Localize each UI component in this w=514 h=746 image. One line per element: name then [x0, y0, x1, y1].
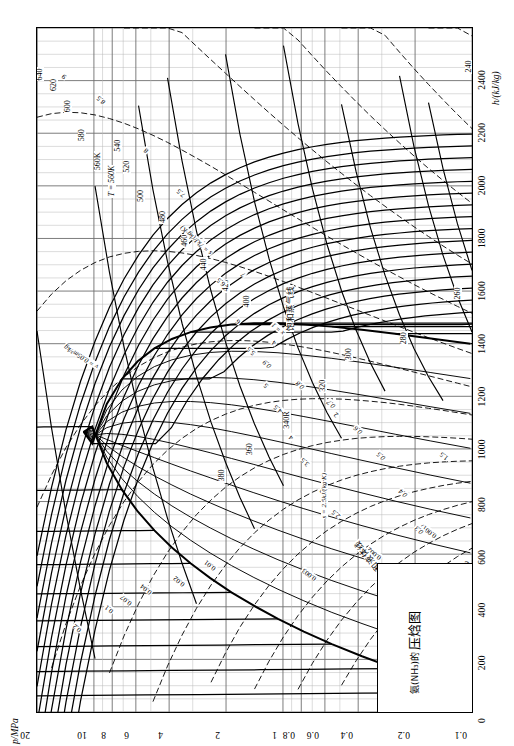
pressure-tick-0.4: 0.4	[340, 730, 352, 740]
isotherm-label-340: 340R	[283, 410, 291, 429]
enthalpy-tick-800: 800	[477, 497, 487, 512]
isochore-label-0.02: 0.02	[171, 574, 187, 588]
isochore-label-0.07: 0.07	[119, 592, 135, 606]
isotherm-label-480: 480	[159, 210, 167, 224]
isentrope-label-8.5: 8.5	[95, 94, 108, 106]
isentrope-label-7.5: 7.5	[175, 186, 188, 198]
pressure-tick-0.1: 0.1	[455, 730, 467, 740]
quality-label-0.6: 0.6	[352, 423, 365, 435]
isentrope-lead-label: s = 2.5kJ/(kg·K)	[321, 472, 328, 520]
enthalpy-tick-2200: 2200	[477, 123, 487, 143]
isotherm-lead-label: T = 560K	[108, 165, 116, 198]
quality-label-0.9: 0.9	[261, 358, 274, 370]
isotherm-label-620: 620	[50, 78, 58, 92]
isentrope-label-3.5: 3.5	[299, 455, 312, 467]
pressure-tick-0.8: 0.8	[283, 730, 295, 740]
enthalpy-tick-2000: 2000	[477, 176, 487, 196]
title-subtitle: 氨(NH₃)的	[408, 652, 421, 694]
isotherm-label-240: 240	[465, 60, 473, 74]
saturated-vapor-label: 饱和蒸气线	[286, 285, 295, 332]
quality-label-0.7: 0.7	[326, 397, 339, 409]
isentrope-label-9: 9	[61, 72, 70, 81]
quality-label-0.8: 0.8	[295, 379, 308, 391]
rotated-chart-canvas: 2010864210.80.60.40.20.1 p/MPa 020040060…	[0, 0, 514, 746]
isotherm-label-520: 520	[123, 160, 131, 174]
isotherm-label-400: 400	[243, 294, 251, 308]
isochore-lead-2-label: v = 0.05m³/kg	[62, 342, 101, 370]
title-main: 压焓图	[404, 611, 423, 650]
isentrope-label-8: 8	[142, 146, 151, 155]
enthalpy-tick-1600: 1600	[477, 281, 487, 301]
isotherm-label-440: 440	[200, 257, 208, 271]
enthalpy-tick-0: 0	[477, 718, 487, 723]
isotherm-label-540: 540	[114, 139, 122, 153]
enthalpy-axis-title: h/(kJ/kg)	[491, 71, 501, 105]
pressure-tick-10: 10	[77, 730, 87, 740]
isotherm-label-360: 360	[246, 442, 254, 456]
pressure-tick-20: 20	[20, 730, 30, 740]
isochore-label-2: 2	[332, 409, 341, 418]
isotherm-label-580: 580	[78, 128, 86, 142]
pressure-tick-1: 1	[272, 730, 277, 740]
isentrope-label-5: 5	[262, 380, 271, 389]
isochore-label-7: 7	[239, 270, 248, 279]
isotherm-label-640: 640	[36, 68, 44, 82]
pressure-tick-4: 4	[158, 730, 163, 740]
enthalpy-tick-1800: 1800	[477, 228, 487, 248]
isentrope-label-5.5: 5.5	[246, 344, 259, 356]
pressure-tick-0.6: 0.6	[307, 730, 319, 740]
title-box: 氨(NH₃)的 压焓图	[377, 563, 473, 713]
pressure-tick-8: 8	[101, 730, 106, 740]
enthalpy-tick-1000: 1000	[477, 439, 487, 459]
pressure-tick-6: 6	[124, 730, 129, 740]
isochore-label-0.1: 0.1	[103, 603, 116, 615]
isentrope-label-4: 4	[287, 433, 296, 442]
enthalpy-tick-400: 400	[477, 603, 487, 618]
isochore-label-0.003: 0.003	[301, 566, 319, 582]
isotherm-label-280: 280	[400, 331, 408, 345]
isotherm-label-300: 300	[345, 347, 353, 361]
isotherm-label-320: 320	[319, 379, 327, 393]
enthalpy-tick-2400: 2400	[477, 70, 487, 90]
isentrope-label-6: 6	[234, 317, 243, 326]
isotherm-label-600: 600	[64, 99, 72, 113]
isotherm-label-500: 500	[137, 189, 145, 203]
enthalpy-tick-1200: 1200	[477, 387, 487, 407]
quality-label-0.4: 0.4	[397, 487, 410, 499]
chart-page: 2010864210.80.60.40.20.1 p/MPa 020040060…	[0, 0, 514, 746]
isentrope-label-2.5: 2.5	[330, 508, 343, 520]
isotherm-label-560: 560K	[94, 151, 102, 171]
isochore-label-0.04: 0.04	[139, 582, 155, 596]
isochore-label-0.2: 0.2	[71, 621, 84, 633]
pressure-tick-2: 2	[215, 730, 220, 740]
enthalpy-tick-200: 200	[477, 655, 487, 670]
enthalpy-tick-600: 600	[477, 550, 487, 565]
isochore-label-1.5: 1.5	[438, 450, 451, 462]
pressure-axis-title: p/MPa	[10, 718, 20, 744]
isotherm-label-380: 380	[218, 469, 226, 483]
isotherm-label-260: 260	[454, 287, 462, 301]
enthalpy-tick-1400: 1400	[477, 334, 487, 354]
isochore-label-0.01: 0.01	[203, 558, 219, 572]
quality-label-0.5: 0.5	[376, 450, 389, 462]
isochore-label-4: 4	[270, 338, 279, 347]
pressure-tick-0.2: 0.2	[397, 730, 409, 740]
